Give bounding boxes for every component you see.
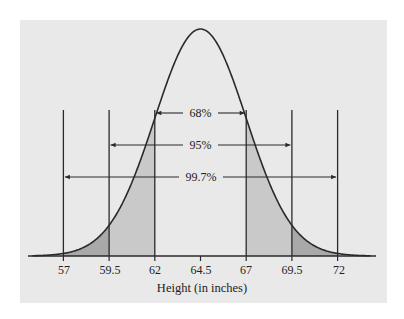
- interval-label-68: 68%: [190, 106, 212, 120]
- tick-label-64-5: 64.5: [191, 263, 212, 277]
- x-axis-title: Height (in inches): [157, 281, 247, 295]
- x-axis-ticks: [63, 256, 337, 261]
- interval-label-95: 95%: [190, 138, 212, 152]
- tick-label-67: 67: [240, 263, 252, 277]
- tick-label-57: 57: [58, 263, 70, 277]
- tick-label-69-5: 69.5: [282, 263, 303, 277]
- interval-label-99-7: 99.7%: [186, 170, 217, 184]
- tick-label-72: 72: [333, 263, 345, 277]
- arrowhead-icon: [65, 175, 70, 180]
- normal-distribution-chart: 68% 95% 99.7% 57 59.5 62 64.5 67 69.5 72…: [0, 0, 404, 319]
- arrowhead-icon: [331, 175, 336, 180]
- arrowhead-icon: [285, 143, 290, 148]
- arrowhead-icon: [111, 143, 116, 148]
- tick-label-62: 62: [149, 263, 161, 277]
- tick-label-59-5: 59.5: [100, 263, 121, 277]
